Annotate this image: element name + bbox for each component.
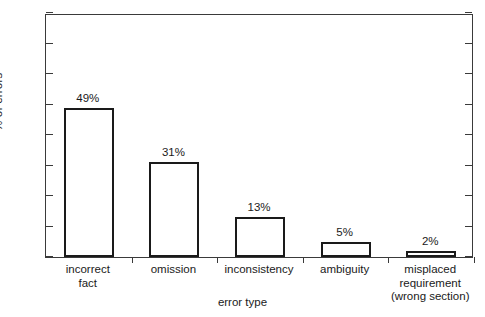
y-axis-tick [46,226,53,227]
bar [64,108,114,257]
y-axis-tick-right [465,104,472,105]
y-axis-tick [46,165,53,166]
y-axis-tick [46,43,53,44]
bar [406,251,456,257]
bar [235,217,285,257]
bar [321,242,371,257]
y-axis-tick-right [465,165,472,166]
bar-value-label: 2% [400,235,460,247]
bar-chart: % of errors error type 01020304050607080… [0,0,485,317]
y-axis-tick [46,73,53,74]
y-axis-tick-right [465,226,472,227]
y-axis-tick-right [465,134,472,135]
y-axis-tick-right [465,43,472,44]
bar-value-label: 31% [143,146,203,158]
bar [149,162,199,257]
y-axis-tick-right [465,195,472,196]
x-axis-category-label: omission [125,263,223,277]
y-axis-tick-right [465,73,472,74]
y-axis-tick [46,134,53,135]
y-axis-title: % of errors [0,73,4,131]
y-axis-tick-right [465,12,472,13]
bar-value-label: 13% [229,201,289,213]
bar-value-label: 49% [58,92,118,104]
x-axis-category-label: misplaced requirement (wrong section) [381,263,479,304]
y-axis-tick [46,195,53,196]
bar-value-label: 5% [315,226,375,238]
y-axis-tick-right [465,256,472,257]
y-axis-tick [46,256,53,257]
x-axis-category-label: inconsistency [210,263,308,277]
plot-area [45,14,473,258]
x-axis-category-label: incorrect fact [39,263,137,290]
y-axis-tick [46,12,53,13]
x-axis-category-label: ambiguity [296,263,394,277]
y-axis-tick [46,104,53,105]
